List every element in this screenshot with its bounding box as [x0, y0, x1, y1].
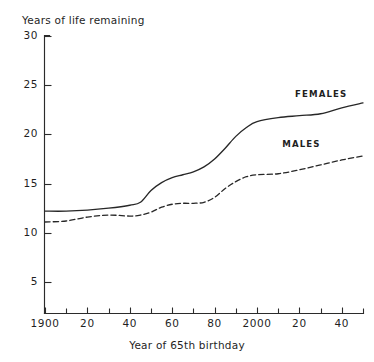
y-axis-tick-label: 20	[12, 127, 38, 139]
chart-plot-area	[0, 0, 374, 362]
x-axis-tick-label: 60	[149, 317, 195, 329]
x-axis-tick-label: 40	[319, 317, 365, 329]
x-axis-tick-label: 80	[192, 317, 238, 329]
chart-axes	[45, 36, 364, 314]
x-axis-tick-label: 40	[107, 317, 153, 329]
chart-figure: Years of life remaining 30252015105 1900…	[0, 0, 374, 362]
series-line-females	[45, 103, 363, 211]
x-axis-tick-label: 20	[64, 317, 110, 329]
x-axis-tick-label: 2000	[234, 317, 280, 329]
x-axis-ticks	[46, 308, 364, 314]
chart-series-lines	[45, 103, 363, 222]
x-axis-tick-label: 20	[276, 317, 322, 329]
y-axis-line	[45, 36, 50, 314]
y-axis-tick-label: 10	[12, 226, 38, 238]
y-axis-tick-label: 25	[12, 78, 38, 90]
y-axis-ticks	[45, 37, 52, 283]
males-label: MALES	[282, 139, 320, 149]
x-axis-title: Year of 65th birthday	[0, 339, 374, 351]
series-line-males	[45, 156, 363, 222]
y-axis-tick-label: 30	[12, 29, 38, 41]
x-axis-tick-label: 1900	[22, 317, 68, 329]
y-axis-tick-label: 5	[12, 275, 38, 287]
females-label: FEMALES	[295, 89, 347, 99]
y-axis-tick-label: 15	[12, 177, 38, 189]
